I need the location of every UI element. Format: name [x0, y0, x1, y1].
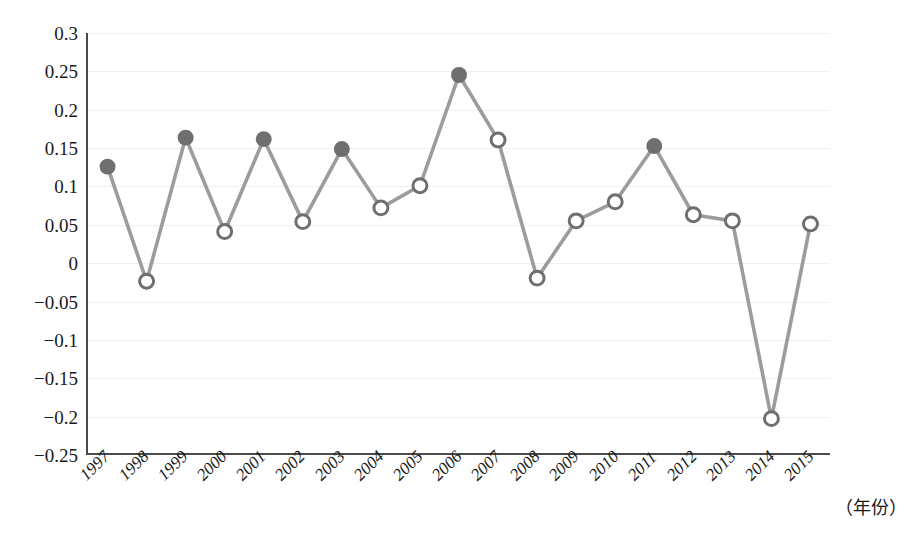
- x-axis-tick-label: 2002: [271, 447, 309, 485]
- x-axis-title: （年份）: [835, 493, 907, 519]
- x-axis-tick-label: 2000: [193, 447, 231, 485]
- x-axis-tick-label: 2008: [506, 447, 544, 485]
- x-axis-tick-label: 2004: [350, 447, 388, 485]
- x-axis-tick-label: 2009: [545, 447, 583, 485]
- x-axis-tick-labels: 1997199819992000200120022003200420052006…: [0, 0, 915, 543]
- x-axis-tick-label: 2010: [585, 447, 623, 485]
- x-axis-tick-label: 2012: [663, 447, 701, 485]
- x-axis-tick-label: 2006: [428, 447, 466, 485]
- chart-figure: 0.30.250.20.150.10.050−0.05−0.1−0.15−0.2…: [0, 0, 915, 543]
- x-axis-tick-label: 2003: [311, 447, 349, 485]
- x-axis-tick-label: 1997: [76, 447, 114, 485]
- x-axis-tick-label: 2014: [741, 447, 779, 485]
- x-axis-tick-label: 2007: [467, 447, 505, 485]
- x-axis-tick-label: 2013: [702, 447, 740, 485]
- x-axis-tick-label: 1998: [115, 447, 153, 485]
- x-axis-tick-label: 2011: [624, 448, 661, 485]
- x-axis-tick-label: 2015: [780, 447, 818, 485]
- x-axis-tick-label: 2001: [232, 447, 270, 485]
- x-axis-tick-label: 1999: [154, 447, 192, 485]
- x-axis-tick-label: 2005: [389, 447, 427, 485]
